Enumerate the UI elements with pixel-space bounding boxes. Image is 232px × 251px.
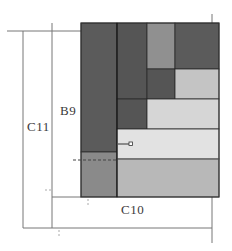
label-b9: B9	[60, 103, 76, 119]
panel-bottom-band	[117, 159, 219, 197]
panel-col3-top	[147, 23, 175, 69]
label-c10: C10	[121, 202, 144, 218]
panel-left-bottom	[81, 152, 117, 197]
label-c11: C11	[27, 119, 50, 135]
panel-col4-mid	[175, 69, 219, 99]
panel-col4-top	[175, 23, 219, 69]
pin-handle-icon[interactable]	[129, 142, 133, 146]
panel-col3-mid	[147, 69, 175, 99]
panel-col2-top	[117, 23, 147, 99]
panel-right-mid2	[147, 99, 219, 129]
panels	[81, 23, 219, 197]
panel-left-tall	[81, 23, 117, 152]
panel-col2-mid2	[117, 99, 147, 129]
